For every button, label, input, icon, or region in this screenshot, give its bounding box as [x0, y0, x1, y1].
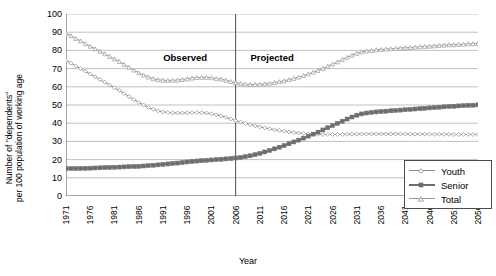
marker-square	[117, 165, 121, 169]
marker-square	[350, 115, 354, 119]
marker-diamond	[79, 67, 83, 71]
marker-square	[277, 145, 281, 149]
marker-diamond	[108, 83, 112, 87]
marker-square	[340, 119, 344, 123]
marker-diamond	[340, 132, 344, 136]
marker-diamond	[419, 169, 424, 174]
legend-glyph	[418, 182, 424, 188]
legend-marker-square-icon	[407, 179, 437, 191]
marker-triangle	[69, 34, 73, 38]
marker-square	[229, 157, 233, 161]
marker-diamond	[321, 132, 325, 136]
marker-diamond	[384, 132, 388, 136]
y-tick-label: 50	[40, 100, 62, 110]
marker-square	[398, 108, 402, 112]
marker-diamond	[297, 131, 301, 135]
x-tick-label: 2001	[206, 201, 216, 229]
marker-diamond	[398, 132, 402, 136]
marker-diamond	[360, 132, 364, 136]
marker-square	[88, 166, 92, 170]
marker-square	[466, 103, 470, 107]
marker-square	[171, 161, 175, 165]
marker-diamond	[394, 132, 398, 136]
x-tick-label: 1991	[158, 201, 168, 229]
marker-square	[403, 108, 407, 112]
marker-square	[418, 107, 422, 111]
marker-diamond	[234, 119, 238, 123]
marker-triangle	[74, 36, 78, 40]
marker-square	[137, 164, 141, 168]
marker-diamond	[423, 132, 427, 136]
marker-diamond	[161, 110, 165, 114]
y-axis-label: Number of "dependents" per 100 populatio…	[0, 0, 28, 276]
x-tick-label: 2031	[352, 201, 362, 229]
marker-diamond	[258, 125, 262, 129]
legend-glyph	[418, 168, 424, 174]
marker-diamond	[253, 124, 257, 128]
marker-square	[175, 161, 179, 165]
marker-diamond	[146, 105, 150, 109]
chart-figure: Number of "dependents" per 100 populatio…	[0, 0, 496, 276]
y-tick-label: 80	[40, 45, 62, 55]
marker-diamond	[447, 132, 451, 136]
marker-diamond	[355, 132, 359, 136]
marker-square	[219, 157, 223, 161]
marker-square	[311, 132, 315, 136]
marker-square	[268, 149, 272, 153]
marker-square	[452, 104, 456, 108]
marker-diamond	[74, 64, 78, 68]
marker-diamond	[185, 111, 189, 115]
marker-square	[413, 107, 417, 111]
marker-triangle	[66, 31, 68, 35]
legend-marker-diamond-icon	[407, 165, 437, 177]
series-youth	[66, 58, 478, 136]
marker-square	[297, 138, 301, 142]
marker-square	[292, 140, 296, 144]
marker-triangle	[335, 60, 339, 64]
marker-square	[66, 167, 68, 171]
marker-diamond	[476, 132, 478, 136]
marker-square	[122, 165, 126, 169]
marker-square	[151, 163, 155, 167]
marker-triangle	[98, 49, 102, 53]
x-tick-label: 1976	[85, 201, 95, 229]
marker-diamond	[302, 131, 306, 135]
x-tick-label: 2016	[279, 201, 289, 229]
marker-diamond	[292, 130, 296, 134]
marker-square	[166, 162, 170, 166]
marker-triangle	[112, 57, 116, 61]
marker-diamond	[466, 132, 470, 136]
marker-diamond	[452, 132, 456, 136]
chart-legend: YouthSeniorTotal	[404, 160, 492, 209]
marker-triangle	[419, 197, 424, 201]
marker-diamond	[88, 72, 92, 76]
x-tick-label: 2011	[255, 201, 265, 229]
marker-square	[428, 106, 432, 110]
marker-diamond	[229, 117, 233, 121]
legend-label: Total	[437, 194, 461, 205]
marker-square	[302, 136, 306, 140]
marker-diamond	[156, 109, 160, 113]
marker-triangle	[108, 54, 112, 58]
marker-square	[205, 158, 209, 162]
marker-diamond	[195, 110, 199, 114]
marker-square	[258, 151, 262, 155]
marker-diamond	[413, 132, 417, 136]
marker-diamond	[98, 78, 102, 82]
marker-triangle	[83, 42, 87, 46]
marker-square	[243, 155, 247, 159]
marker-diamond	[331, 132, 335, 136]
y-tick-label: 100	[40, 9, 62, 19]
y-tick-label: 20	[40, 155, 62, 165]
marker-square	[355, 113, 359, 117]
marker-triangle	[326, 64, 330, 68]
marker-diamond	[209, 112, 213, 116]
marker-square	[200, 159, 204, 163]
marker-diamond	[180, 111, 184, 115]
marker-diamond	[243, 121, 247, 125]
y-tick-label: 10	[40, 173, 62, 183]
marker-diamond	[93, 75, 97, 79]
marker-square	[282, 144, 286, 148]
marker-triangle	[79, 39, 83, 43]
marker-diamond	[214, 113, 218, 117]
